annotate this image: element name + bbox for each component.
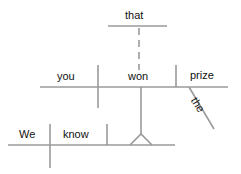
sentence-diagram: that you won prize the We know: [0, 0, 241, 174]
word-we: We: [19, 128, 35, 140]
diagram-lines: [0, 0, 241, 174]
word-won: won: [128, 70, 148, 82]
word-you: you: [57, 70, 75, 82]
word-prize: prize: [190, 69, 214, 81]
pedestal-legs: [130, 134, 152, 145]
word-that: that: [125, 9, 143, 21]
word-know: know: [63, 128, 89, 140]
